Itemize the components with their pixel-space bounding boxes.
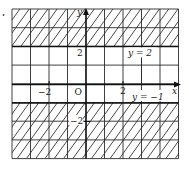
hatch-line xyxy=(157,103,190,159)
x-axis-label: x xyxy=(172,86,177,96)
hatch-line xyxy=(0,103,29,159)
hatch-line xyxy=(0,103,11,159)
hatch-line xyxy=(0,103,1,159)
origin-label: O xyxy=(75,87,82,97)
hatch-line xyxy=(0,9,1,47)
x-tick-label-minus-2: −2 xyxy=(38,87,51,97)
stray-dot xyxy=(3,14,5,16)
hatch-line xyxy=(188,9,190,47)
y-axis-label: y xyxy=(76,7,83,17)
boundary-label-y-minus-1: y = −1 xyxy=(131,92,164,102)
hatch-line xyxy=(185,103,190,159)
x-tick-label-2: 2 xyxy=(120,86,126,96)
hatched-region-bottom xyxy=(0,103,190,159)
hatch-line xyxy=(179,9,190,47)
y-tick-label-2: 2 xyxy=(77,48,83,58)
hatch-line xyxy=(0,9,11,47)
boundary-label-y-2: y = 2 xyxy=(127,48,152,58)
hatch-line xyxy=(166,103,190,159)
hatch-line xyxy=(175,103,190,159)
hatch-line xyxy=(0,103,20,159)
y-tick-label-minus-2: −2 xyxy=(70,116,83,126)
inequality-graph: y x O −2 2 2 −2 y = 2 y = −1 xyxy=(0,0,190,174)
